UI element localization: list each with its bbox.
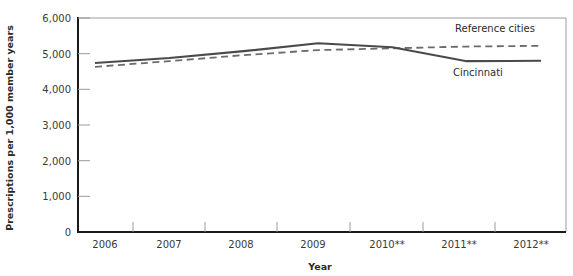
x-axis-title: Year [307, 261, 332, 272]
x-tick-label-2011: 2011** [441, 239, 476, 250]
x-axis-ticks [133, 222, 495, 232]
y-tick-label-1000: 1,000 [42, 191, 71, 202]
x-tick-label-2012: 2012** [513, 239, 548, 250]
x-tick-label-2008: 2008 [228, 239, 253, 250]
series-annotation-cincinnati: Cincinnati [453, 67, 503, 78]
series-line-reference-cities [95, 46, 541, 67]
x-tick-label-2009: 2009 [300, 239, 325, 250]
y-axis-ticks [78, 18, 90, 196]
chart-figure: 6,000 5,000 4,000 3,000 2,000 1,000 0 20… [0, 0, 573, 276]
x-tick-label-2010: 2010** [369, 239, 404, 250]
y-tick-label-5000: 5,000 [42, 49, 71, 60]
y-tick-label-6000: 6,000 [42, 13, 71, 24]
series-annotation-reference-cities: Reference cities [455, 23, 535, 34]
y-tick-label-0: 0 [65, 227, 71, 238]
y-tick-label-2000: 2,000 [42, 156, 71, 167]
x-tick-label-2006: 2006 [92, 239, 117, 250]
y-tick-label-3000: 3,000 [42, 120, 71, 131]
prescriptions-line-chart: 6,000 5,000 4,000 3,000 2,000 1,000 0 20… [0, 0, 573, 276]
y-axis-title: Prescriptions per 1,000 member years [4, 25, 15, 231]
y-tick-label-4000: 4,000 [42, 84, 71, 95]
x-tick-label-2007: 2007 [156, 239, 181, 250]
